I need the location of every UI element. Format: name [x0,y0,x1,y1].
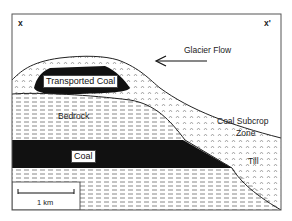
transported-coal-label: Transported Coal [43,75,118,88]
cross-section-diagram [0,0,292,221]
bedrock-label: Bedrock [58,112,89,121]
coal-label: Coal [71,150,96,163]
scale-bar-label: 1 km [37,199,53,207]
subcrop-zone-label-line2: Zone [236,129,255,138]
subcrop-zone-label-line1: Coal Subcrop [217,117,269,126]
till-label: Till [248,157,259,166]
section-end-label: x' [264,19,271,28]
section-start-label: x [18,19,23,28]
glacier-flow-label: Glacier Flow [184,46,231,55]
